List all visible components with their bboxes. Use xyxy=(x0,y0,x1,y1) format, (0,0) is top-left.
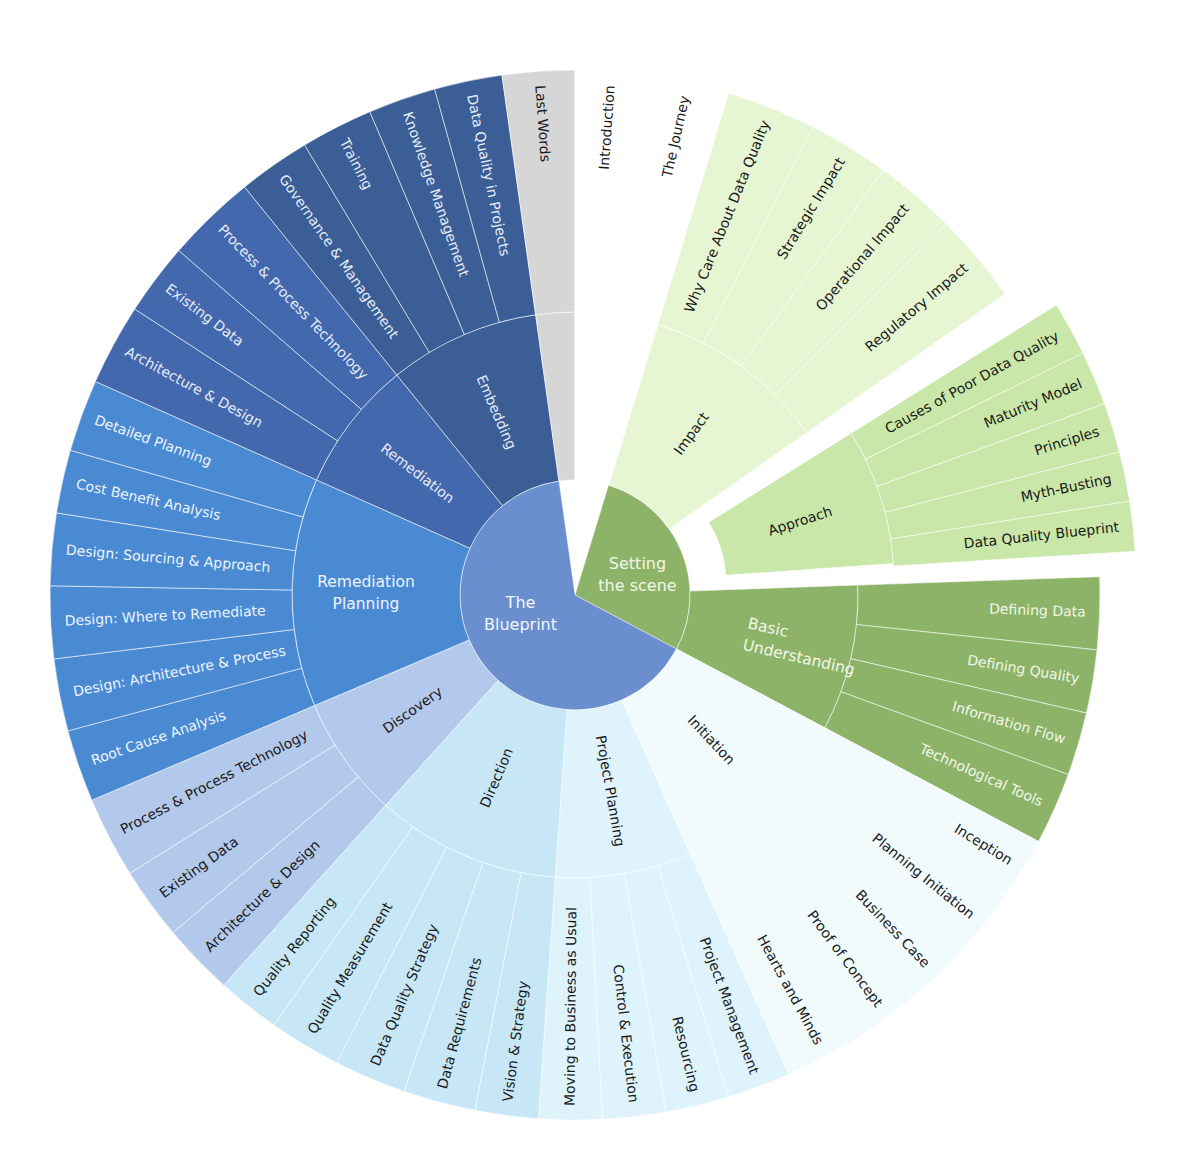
core-the-blueprint-label: Blueprint xyxy=(484,615,557,634)
ring-remediation-planning-label: Remediation xyxy=(317,573,415,591)
core-the-blueprint-label: The xyxy=(505,593,536,612)
leaf-moving-to-business-as-usual-label: Moving to Business as Usual xyxy=(562,907,580,1106)
core-setting-the-scene-label: Setting xyxy=(609,554,666,573)
leaf-defining-data-label: Defining Data xyxy=(989,600,1086,619)
sunburst-chart: ImpactWhy Care About Data QualityStrateg… xyxy=(0,0,1194,1175)
core-setting-the-scene-label: the scene xyxy=(598,576,676,595)
ring-remediation-planning-label: Planning xyxy=(333,595,400,613)
segments-layer xyxy=(50,70,1135,1120)
